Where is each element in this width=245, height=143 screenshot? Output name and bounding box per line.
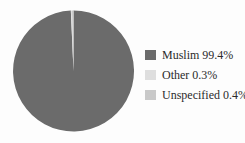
legend-item: Muslim 99.4% [145,45,245,65]
legend-swatch-other [145,70,156,80]
legend-swatch-muslim [145,50,156,60]
pie-slice-muslim [13,10,134,131]
legend-item: Other 0.3% [145,65,245,85]
legend-label-other: Other 0.3% [162,69,217,81]
legend-item: Unspecified 0.4% [145,85,245,105]
legend-label-unspecified: Unspecified 0.4% [162,89,245,101]
chart-container: Muslim 99.4% Other 0.3% Unspecified 0.4% [0,0,245,143]
legend-label-muslim: Muslim 99.4% [162,49,233,61]
legend: Muslim 99.4% Other 0.3% Unspecified 0.4% [145,45,245,105]
legend-swatch-unspecified [145,90,156,100]
